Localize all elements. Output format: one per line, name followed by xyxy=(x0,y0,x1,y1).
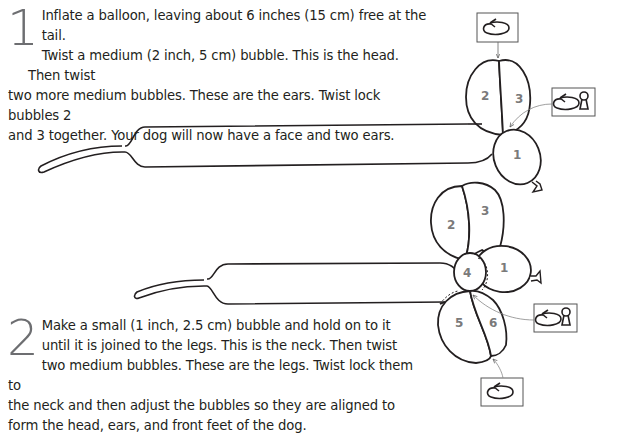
twist-icon xyxy=(477,13,518,58)
twist-icon xyxy=(481,359,523,406)
bubble-label-1: 1 xyxy=(500,261,508,275)
balloon-body xyxy=(39,124,468,172)
bubble-label-5: 5 xyxy=(455,316,463,330)
bubble-label-2: 2 xyxy=(481,89,489,103)
balloon-knot xyxy=(532,181,542,192)
bubble-label-3: 3 xyxy=(515,92,523,106)
diagram-2: 2 3 4 1 5 6 xyxy=(135,183,577,406)
bubble-label-2: 2 xyxy=(447,218,455,232)
diagram-1: 2 3 1 xyxy=(39,13,595,192)
balloon-knot xyxy=(530,271,541,283)
bubble-label-1: 1 xyxy=(513,148,521,162)
balloon-body xyxy=(135,263,445,304)
bubble-label-3: 3 xyxy=(481,204,489,218)
bubble-label-4: 4 xyxy=(463,266,471,280)
bubble-label-6: 6 xyxy=(489,316,497,330)
